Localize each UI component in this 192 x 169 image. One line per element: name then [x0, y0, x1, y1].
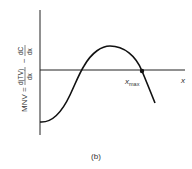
xmax-point: [140, 69, 144, 73]
figure-caption: (b): [91, 152, 101, 161]
svg-text:dx: dx: [26, 72, 33, 80]
svg-text:MNV: MNV: [20, 94, 29, 112]
x-axis-label: x: [180, 76, 186, 85]
svg-text:dC: dC: [17, 46, 24, 55]
svg-text:−: −: [20, 58, 29, 63]
svg-text:dx: dx: [26, 47, 33, 55]
xmax-label: xmax: [124, 77, 140, 87]
svg-text:d(TV): d(TV): [17, 69, 25, 85]
y-axis-label: MNV = d(TV) dx − dC dx: [17, 45, 33, 112]
mnv-diagram: x xmax MNV = d(TV) dx − dC dx (b): [0, 0, 192, 169]
svg-text:=: =: [20, 87, 29, 92]
